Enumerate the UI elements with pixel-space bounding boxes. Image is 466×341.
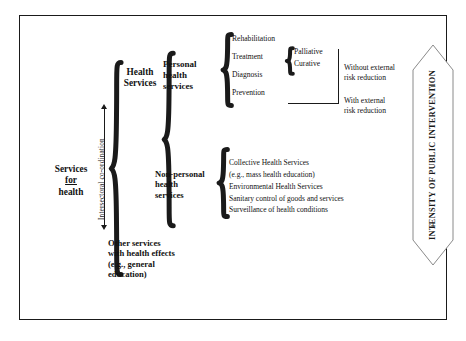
root-label-line3: health [34,187,108,198]
list-item: Sanitary control of goods and services [229,193,389,205]
root-label-line2: for [34,175,108,186]
diagram-frame: Services for health Health Services Othe… [19,15,447,320]
brace-non-personal-items [218,149,229,217]
node-services-for-health: Services for health [34,164,108,198]
coordination-label: Intersectoral co-ordination [98,138,106,220]
connector-subitems-riser [338,71,339,103]
without-risk-line1: Without external [344,63,420,73]
list-item: (e.g., mass health education) [229,169,389,181]
personal-line1: Personal [163,59,225,70]
list-treatment-subitems: Palliative Curative [294,47,342,71]
connector-subitems-vertical [338,49,339,71]
list-item: Palliative [294,47,342,59]
label-with-external-risk-reduction: With external risk reduction [344,96,420,116]
node-personal-health-services: Personal health services [163,59,225,92]
other-services-line3: (e.g., general [108,259,218,269]
other-services-line2: with health effects [108,248,218,258]
intensity-banner: – INTENSITY OF PUBLIC INTERVENTION + [412,44,454,266]
banner-label: INTENSITY OF PUBLIC INTERVENTION [412,44,454,266]
label-without-external-risk-reduction: Without external risk reduction [344,63,420,83]
personal-line2: health [163,70,225,81]
banner-sign-bottom: + [412,220,454,230]
other-services-line1: Other services [108,238,218,248]
connector-prevention-horizontal [288,103,339,104]
personal-line3: services [163,81,225,92]
with-risk-line2: risk reduction [344,106,420,116]
brace-treatment-subitems [286,48,294,74]
list-item: Surveillance of health conditions [229,204,389,216]
list-item: Environmental Health Services [229,181,389,193]
list-item: Curative [294,59,342,71]
root-label-line1: Services [34,164,108,175]
list-item: Collective Health Services [229,157,389,169]
with-risk-line1: With external [344,96,420,106]
coordination-arrow-head-down [101,225,107,230]
without-risk-line2: risk reduction [344,73,420,83]
other-services-line4: education) [108,269,218,279]
list-non-personal-items: Collective Health Services (e.g., mass h… [229,157,389,216]
node-other-services: Other services with health effects (e.g.… [108,238,218,280]
